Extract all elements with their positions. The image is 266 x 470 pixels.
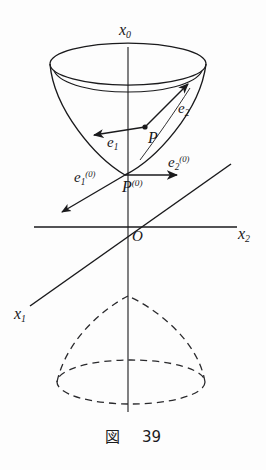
figure-caption-number: 39 [142, 428, 161, 446]
vector-e1-0-label-sup: (0) [85, 169, 95, 179]
upper-cone-left-edge [50, 64, 125, 175]
vector-e2-label: e2 [178, 101, 189, 118]
vector-e1-label-sub: 1 [114, 142, 119, 152]
x1-axis-label: x1 [14, 306, 26, 324]
figure-container: x0 x2 x1 O P P(0) e1 e2 e1(0) e2(0) 図39 [0, 0, 266, 470]
point-p0-label: P(0) [122, 179, 143, 195]
vector-e1-arrow [94, 127, 145, 135]
lower-cone-rim [57, 360, 205, 404]
vector-e2-label-sub: 2 [185, 108, 190, 118]
vector-e1-label: e1 [107, 135, 118, 152]
vector-e1-0-label-base: e [74, 169, 81, 185]
lower-cone-left-edge [57, 296, 128, 382]
vector-e2-0-label: e2(0) [168, 155, 189, 172]
vector-e2-0-label-sup: (0) [179, 154, 189, 164]
lower-cone-right-edge [128, 296, 205, 382]
vector-e2-label-base: e [178, 100, 185, 116]
x1-axis-label-sub: 1 [21, 313, 26, 324]
vector-e1-label-base: e [107, 134, 114, 150]
x2-axis-label: x2 [238, 226, 250, 244]
vector-e2-0-label-base: e [168, 154, 175, 170]
vector-e1-0-label: e1(0) [74, 170, 95, 187]
point-p0-label-sup: (0) [132, 178, 143, 188]
x0-axis-label: x0 [119, 22, 131, 40]
x2-axis-label-sub: 2 [245, 233, 250, 244]
figure-caption-symbol: 図 [105, 428, 120, 446]
upper-cone-right-edge [125, 64, 206, 175]
origin-label: O [132, 229, 143, 244]
figure-caption: 図39 [0, 425, 266, 446]
point-p-label: P [148, 130, 158, 146]
x0-axis-label-sub: 0 [126, 29, 131, 40]
point-p0-label-base: P [122, 178, 132, 195]
